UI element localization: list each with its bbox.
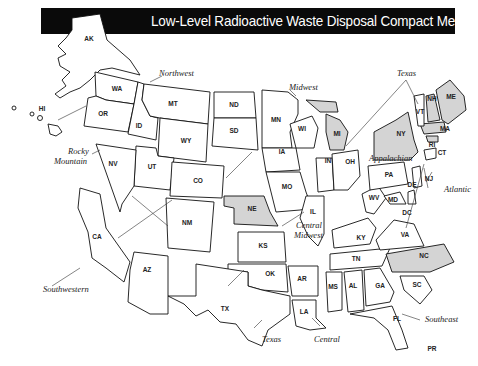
label-mn: MN [271,116,281,123]
region-central-midwest-2: Midwest [293,230,323,240]
label-ca: CA [92,233,102,240]
state-ky [332,218,376,248]
label-nj: NJ [425,175,434,182]
state-az [128,252,168,314]
label-id: ID [136,122,143,129]
label-la: LA [300,308,309,315]
label-tx: TX [221,305,230,312]
state-sd [212,118,258,150]
label-ia: IA [279,148,286,155]
label-fl: FL [393,315,401,322]
region-rocky-1: Rocky [67,146,89,156]
label-tn: TN [352,255,361,262]
label-nm: NM [182,219,192,226]
label-sc: SC [412,281,421,288]
label-ak: AK [84,35,94,42]
region-texas-bottom: Texas [262,334,282,344]
region-southeast: Southeast [425,314,459,324]
label-ri: RI [429,141,436,148]
us-compact-map: AK HI WA OR ID MT WY UT NV CA AZ CO NM N… [0,0,478,366]
label-mt: MT [168,100,177,107]
label-mo: MO [282,183,292,190]
label-pa: PA [385,171,394,178]
label-in: IN [325,157,332,164]
label-va: VA [401,231,410,238]
label-md: MD [388,196,398,203]
label-wa: WA [112,85,123,92]
label-wi: WI [298,125,306,132]
label-az: AZ [143,266,152,273]
region-northwest: Northwest [158,68,195,78]
label-nv: NV [108,160,118,167]
label-nc: NC [419,252,429,259]
label-mi: MI [333,130,340,137]
label-ne: NE [247,205,257,212]
state-la [292,300,326,330]
label-nh: NH [427,95,437,102]
label-ct: CT [438,149,447,156]
state-hi [12,106,62,136]
state-al [344,270,364,312]
label-me: ME [446,93,456,100]
state-ct [424,148,436,160]
label-il: IL [310,208,316,215]
state-me [436,80,466,124]
label-ok: OK [265,270,275,277]
label-sd: SD [229,127,238,134]
label-ut: UT [148,163,157,170]
label-ma: MA [440,125,450,132]
region-midwest: Midwest [288,82,318,92]
region-appalachian: Appalachian [368,153,412,163]
label-ar: AR [297,275,307,282]
region-central-midwest-1: Central [296,220,323,230]
label-ky: KY [356,234,366,241]
state-fl [350,306,408,350]
label-dc: DC [402,209,412,216]
region-central: Central [314,334,341,344]
label-wv: WV [369,194,380,201]
label-co: CO [193,177,203,184]
label-oh: OH [345,158,355,165]
label-hi: HI [39,105,46,112]
region-texas-top: Texas [397,68,417,78]
region-rocky-2: Mountain [53,156,87,166]
label-vt: VT [416,108,424,115]
label-de: DE [407,181,417,188]
state-nv [96,144,136,212]
label-or: OR [98,110,108,117]
label-ny: NY [396,130,406,137]
region-southwestern: Southwestern [43,284,89,294]
label-nd: ND [229,101,239,108]
label-pr: PR [427,345,436,352]
label-ks: KS [258,242,268,249]
state-ms [326,272,342,312]
label-al: AL [349,282,358,289]
label-wy: WY [181,137,192,144]
region-atlantic: Atlantic [443,184,471,194]
label-ga: GA [375,282,385,289]
state-oh [332,150,360,190]
label-ms: MS [328,283,338,290]
